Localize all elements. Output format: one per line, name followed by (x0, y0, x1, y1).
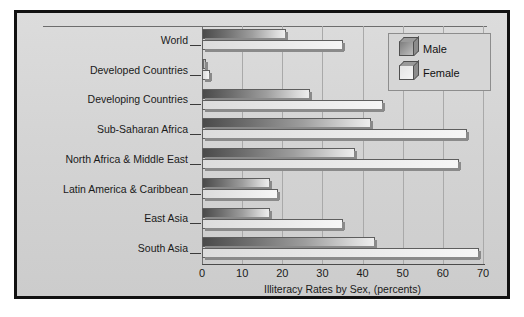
legend: Male Female (388, 33, 491, 91)
category-tick (190, 104, 201, 105)
bar-female (202, 70, 210, 80)
bar-female (202, 129, 467, 139)
bar-female (202, 219, 343, 229)
bar-male (202, 178, 270, 188)
x-tick-label: 40 (356, 267, 368, 279)
bar-female (202, 40, 343, 50)
x-tick-label: 10 (236, 267, 248, 279)
category-tick (190, 75, 201, 76)
legend-item-female: Female (399, 65, 460, 80)
bar-group (202, 234, 483, 264)
x-tick-label: 30 (316, 267, 328, 279)
category-tick (190, 253, 201, 254)
x-axis-title: Illiteracy Rates by Sex, (percents) (202, 283, 483, 295)
bar-male (202, 59, 206, 69)
bar-group (202, 145, 483, 175)
category-label: South Asia (8, 242, 188, 254)
category-tick (190, 223, 201, 224)
category-tick (190, 194, 201, 195)
chart-screenshot: WorldDeveloped CountriesDeveloping Count… (0, 0, 524, 317)
category-tick (190, 45, 201, 46)
x-axis-line (202, 264, 485, 265)
bar-male (202, 89, 310, 99)
bar-female (202, 100, 383, 110)
x-tick-label: 50 (397, 267, 409, 279)
legend-label-female: Female (423, 67, 460, 79)
legend-item-male: Male (399, 41, 447, 56)
bar-female (202, 248, 479, 258)
category-tick (190, 134, 201, 135)
cube-light-icon (399, 65, 414, 80)
category-label: East Asia (8, 212, 188, 224)
cube-dark-icon (399, 41, 414, 56)
chart-frame: WorldDeveloped CountriesDeveloping Count… (14, 10, 510, 299)
bar-female (202, 159, 459, 169)
x-tick-label: 60 (437, 267, 449, 279)
bar-male (202, 208, 270, 218)
category-label: Sub-Saharan Africa (8, 123, 188, 135)
x-tick-label: 70 (477, 267, 489, 279)
category-label: Latin America & Caribbean (8, 183, 188, 195)
category-label: World (8, 34, 188, 46)
bar-group (202, 175, 483, 205)
x-tick-label: 20 (276, 267, 288, 279)
category-label: Developed Countries (8, 64, 188, 76)
bar-female (202, 189, 278, 199)
legend-label-male: Male (423, 43, 447, 55)
bar-male (202, 237, 375, 247)
bar-group (202, 115, 483, 145)
bar-male (202, 29, 286, 39)
category-tick (190, 164, 201, 165)
category-label: North Africa & Middle East (8, 153, 188, 165)
bar-male (202, 148, 355, 158)
category-label: Developing Countries (8, 93, 188, 105)
bar-group (202, 205, 483, 235)
bar-male (202, 118, 371, 128)
x-tick-label: 0 (199, 267, 205, 279)
